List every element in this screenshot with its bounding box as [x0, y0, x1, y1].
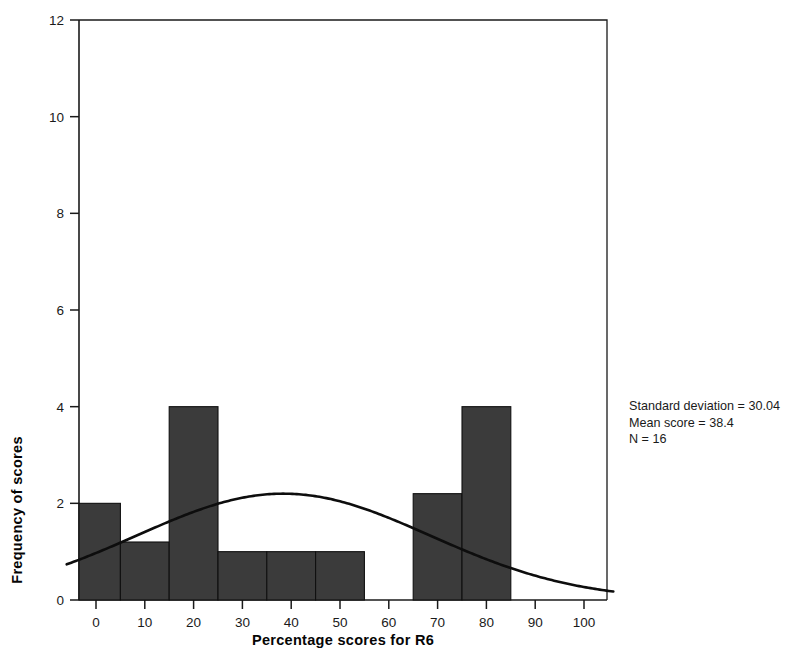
statistics-annotation: Standard deviation = 30.04 Mean score = …	[629, 398, 795, 448]
x-tick-label: 80	[479, 615, 494, 630]
y-tick-label: 6	[56, 303, 64, 318]
x-tick-label: 40	[284, 615, 299, 630]
x-tick-label: 90	[528, 615, 543, 630]
x-tick-label: 10	[137, 615, 152, 630]
x-tick-label: 50	[332, 615, 347, 630]
x-axis-title: Percentage scores for R6	[252, 632, 434, 648]
y-axis-ticks	[70, 20, 79, 600]
x-tick-label: 20	[186, 615, 201, 630]
y-tick-label: 4	[56, 400, 64, 415]
histogram-bar	[120, 542, 169, 600]
mean-score-text: Mean score = 38.4	[629, 415, 795, 432]
y-tick-label: 12	[49, 13, 64, 28]
histogram-figure: 024681012 0102030405060708090100 Percent…	[0, 0, 798, 654]
histogram-bar	[169, 407, 218, 600]
y-axis-title: Frequency of scores	[9, 436, 25, 584]
plot-frame	[79, 20, 607, 600]
y-tick-label: 2	[56, 496, 64, 511]
y-tick-label: 8	[56, 206, 64, 221]
x-axis-ticks	[96, 600, 584, 609]
x-tick-label: 30	[235, 615, 250, 630]
std-dev-text: Standard deviation = 30.04	[629, 398, 795, 415]
x-tick-label: 70	[430, 615, 445, 630]
x-axis-tick-labels: 0102030405060708090100	[92, 615, 595, 630]
histogram-bars	[79, 407, 511, 600]
chart-canvas: 024681012 0102030405060708090100 Percent…	[0, 0, 798, 654]
histogram-bar	[462, 407, 511, 600]
y-tick-label: 10	[49, 110, 64, 125]
sample-size-text: N = 16	[629, 431, 795, 448]
x-tick-label: 60	[381, 615, 396, 630]
x-tick-label: 100	[573, 615, 596, 630]
y-tick-label: 0	[56, 593, 64, 608]
y-axis-tick-labels: 024681012	[49, 13, 65, 608]
histogram-bar	[267, 552, 316, 600]
x-tick-label: 0	[92, 615, 100, 630]
histogram-bar	[218, 552, 267, 600]
histogram-bar	[316, 552, 365, 600]
